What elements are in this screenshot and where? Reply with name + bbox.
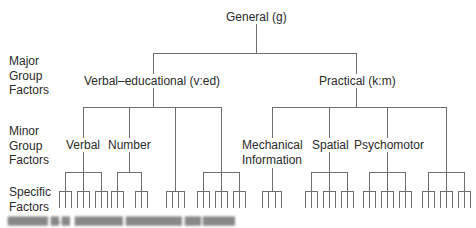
minor-node-number: Number — [107, 138, 152, 152]
minor-node-label-line: Mechanical — [242, 138, 303, 153]
level-label-minor: Minor Group Factors — [9, 124, 49, 168]
level-label-line: Specific — [9, 185, 51, 200]
level-label-line: Major — [9, 54, 49, 69]
minor-node-mechanical-information: Mechanical Information — [241, 138, 304, 168]
major-node-verbal-educational: Verbal–educational (v:ed) — [83, 74, 221, 88]
minor-node-psychomotor: Psychomotor — [353, 138, 425, 152]
figure-caption: ▆▆▆▆▆ ▆.▆ ▆▆▆▆▆▆ ▆▆▆▆▆▆▆ ▆▆ ▆▆▆▆ — [8, 214, 235, 225]
minor-node-spatial: Spatial — [311, 138, 350, 152]
level-label-line: Factors — [9, 153, 49, 168]
major-node-practical: Practical (k:m) — [318, 74, 397, 88]
level-label-line: Group — [9, 69, 49, 84]
hierarchical-model-diagram: Major Group Factors Minor Group Factors … — [0, 0, 476, 228]
minor-node-verbal: Verbal — [65, 138, 101, 152]
level-label-line: Group — [9, 139, 49, 154]
level-label-line: Minor — [9, 124, 49, 139]
minor-node-label-line: Information — [242, 153, 303, 168]
tree-lines — [0, 0, 476, 228]
root-node-general: General (g) — [226, 10, 287, 24]
level-label-major: Major Group Factors — [9, 54, 49, 98]
level-label-specific: Specific Factors — [9, 185, 51, 214]
level-label-line: Factors — [9, 200, 51, 215]
level-label-line: Factors — [9, 83, 49, 98]
